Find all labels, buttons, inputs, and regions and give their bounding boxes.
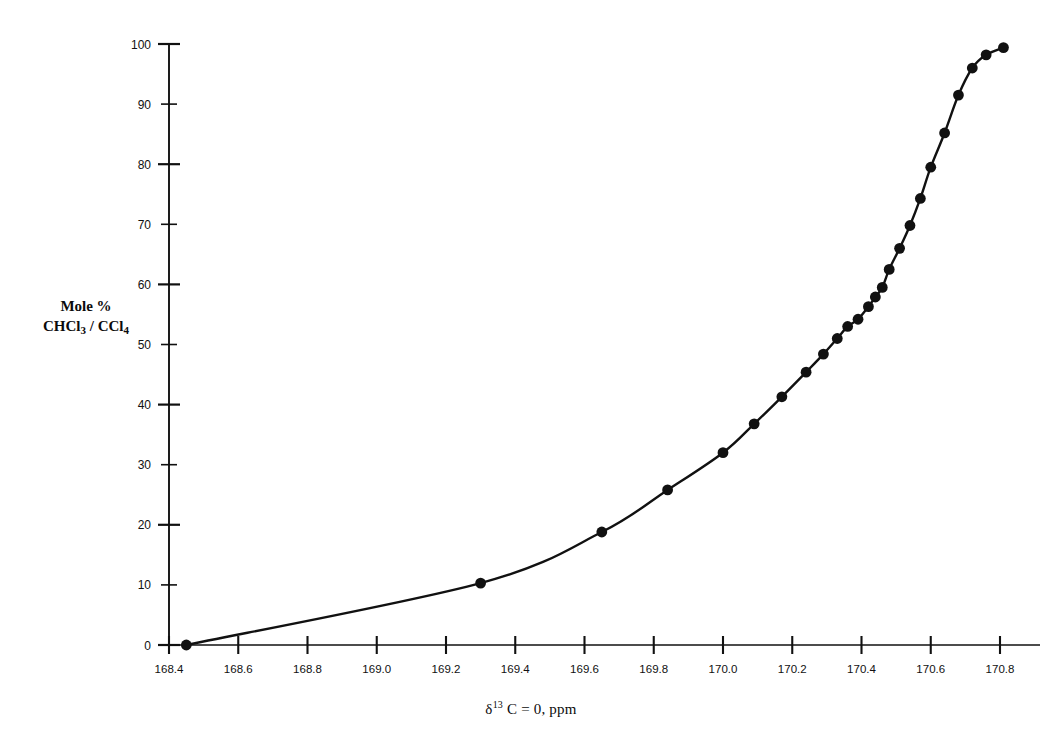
chart-page: 0102030405060708090100 168.4168.6168.816… [0, 0, 1062, 752]
x-axis-tick-label: 170.6 [916, 663, 945, 675]
y-axis-tick-labels: 0102030405060708090100 [131, 38, 151, 653]
data-point [475, 578, 486, 589]
y-axis-tick-label: 90 [138, 98, 152, 112]
y-axis-tick-label: 0 [144, 639, 151, 653]
y-axis-label-line1: Mole % [26, 296, 146, 316]
data-point [863, 301, 874, 312]
y-axis-label: Mole % CHCl3 / CCl4 [26, 296, 146, 338]
y-axis-tick-label: 100 [131, 38, 151, 52]
data-point [842, 321, 853, 332]
y-axis-tick-label: 40 [138, 398, 152, 412]
x-axis-group: 168.4168.6168.8169.0169.2169.4169.6169.8… [155, 636, 1040, 675]
y-axis-tick-label: 60 [138, 278, 152, 292]
y-axis-tick-label: 20 [138, 518, 152, 532]
data-point [718, 447, 729, 458]
x-axis-label: δ13 C = 0, ppm [0, 699, 1062, 718]
y-axis-tick-label: 30 [138, 458, 152, 472]
data-point [967, 63, 978, 74]
data-point [662, 485, 673, 496]
data-point [596, 527, 607, 538]
data-point [749, 418, 760, 429]
x-axis-tick-label: 169.6 [570, 663, 599, 675]
data-point [905, 220, 916, 231]
x-axis-tick-label: 169.4 [501, 663, 530, 675]
y-axis-group: 0102030405060708090100 [131, 38, 180, 653]
x-axis-tick-label: 168.6 [224, 663, 253, 675]
x-axis-tick-label: 170.0 [709, 663, 738, 675]
y-axis-tick-label: 10 [138, 578, 152, 592]
data-point-markers [181, 42, 1009, 650]
x-axis-tick-label: 170.8 [986, 663, 1015, 675]
data-curve [186, 48, 1003, 645]
y-axis-label-ccl: / CCl [86, 318, 124, 334]
x-axis-tick-label: 169.2 [432, 663, 461, 675]
data-point [181, 640, 192, 651]
data-point [818, 349, 829, 360]
data-point [915, 193, 926, 204]
data-point [801, 367, 812, 378]
data-point [894, 243, 905, 254]
x-axis-tick-labels: 168.4168.6168.8169.0169.2169.4169.6169.8… [155, 663, 1015, 675]
data-point [853, 314, 864, 325]
x-axis-label-text: C = 0, ppm [507, 701, 577, 717]
y-axis-tick-label: 50 [138, 338, 152, 352]
x-axis-tick-label: 170.2 [778, 663, 807, 675]
data-point [998, 42, 1009, 53]
data-point [884, 264, 895, 275]
x-axis-tick-label: 170.4 [847, 663, 876, 675]
data-point [939, 128, 950, 139]
x-axis-label-superscript: 13 [493, 699, 503, 710]
x-axis-tick-label: 169.8 [639, 663, 668, 675]
x-axis-tick-label: 168.8 [293, 663, 322, 675]
y-axis-label-line2: CHCl3 / CCl4 [26, 316, 146, 338]
x-axis-tick-label: 168.4 [155, 663, 184, 675]
y-axis-tick-label: 80 [138, 158, 152, 172]
data-point [776, 391, 787, 402]
y-axis-label-chcl: CHCl [43, 318, 81, 334]
data-point [981, 49, 992, 60]
data-point [832, 333, 843, 344]
x-axis-label-delta: δ [485, 701, 492, 717]
scatter-plot: 0102030405060708090100 168.4168.6168.816… [0, 0, 1062, 752]
data-point [870, 292, 881, 303]
data-point [953, 90, 964, 101]
x-axis-tick-label: 169.0 [362, 663, 391, 675]
y-axis-label-sub-4: 4 [124, 324, 130, 336]
data-point [925, 162, 936, 173]
data-point [877, 282, 888, 293]
y-axis-tick-label: 70 [138, 218, 152, 232]
